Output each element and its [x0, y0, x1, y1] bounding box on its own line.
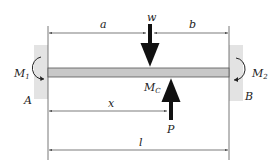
load-w-label: w [147, 11, 157, 24]
moment-m1-label: M1 [13, 67, 30, 81]
dimension-x-label: x [108, 97, 115, 110]
support-a-label: A [23, 94, 32, 107]
force-p-label: P [166, 123, 175, 136]
beam-diagram: a b w P MC M1 M2 A B x l [0, 0, 280, 167]
diagram-canvas: a b w P MC M1 M2 A B x l [0, 0, 280, 167]
dimension-l-label: l [139, 136, 143, 149]
moment-m2-label: M2 [251, 67, 268, 81]
dimension-b-label: b [189, 18, 196, 31]
dimension-a-label: a [100, 18, 107, 31]
right-wall [229, 45, 243, 101]
beam [48, 68, 229, 77]
left-wall [34, 45, 48, 99]
support-b-label: B [244, 90, 253, 103]
moment-mc-label: MC [143, 81, 161, 95]
